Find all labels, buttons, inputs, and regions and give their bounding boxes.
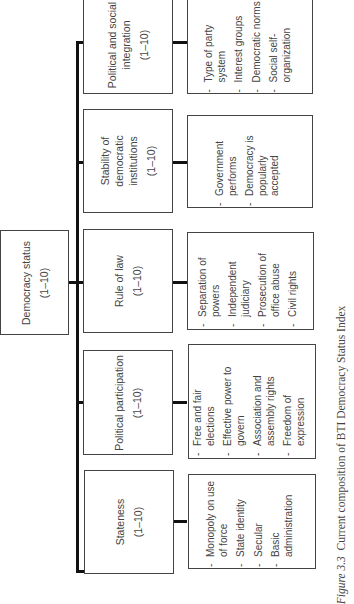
indicator-item: Independent judiciary [227, 235, 252, 327]
criterion-range: (1–10) [131, 472, 145, 572]
indicator-box-political-social-integration: Type of party system Interest groups Dem… [187, 0, 313, 94]
leaf-connector [172, 520, 187, 523]
leaf-connector [172, 41, 187, 44]
criterion-range: (1–10) [130, 231, 144, 331]
leaf-connector [172, 281, 187, 284]
indicator-item: Separation of powers [197, 235, 222, 327]
criterion-title: Political and social integration [106, 1, 132, 87]
root-range: (1–10) [37, 233, 51, 333]
indicator-item: Secular [252, 477, 265, 567]
criterion-box-stability-democratic-institutions: Stability of democratic institutions (1–… [83, 109, 173, 213]
criterion-title: Stability of democratic institutions [99, 135, 139, 186]
criterion-box-political-social-integration: Political and social integration (1–10) [83, 0, 173, 94]
leaf-connector [172, 401, 187, 404]
root-box-democracy-status: Democracy status (1–10) [0, 230, 69, 335]
indicator-item: Type of party system [203, 0, 228, 92]
indicator-item: Prosecution of office abuse [257, 235, 282, 327]
indicator-item: Government performs [214, 118, 239, 206]
indicator-box-political-participation: Free and fair elections Effective power … [188, 344, 316, 459]
indicator-box-stability-democratic-institutions: Government performs Democracy is popular… [187, 115, 313, 208]
indicator-item: Democracy is popularly accepted [244, 118, 282, 206]
caption-text: Current composition of BTI Democracy Sta… [335, 306, 347, 551]
criterion-title: Political participation [113, 355, 125, 451]
trunk-line [76, 41, 79, 573]
indicator-item: Association and assembly rights [252, 348, 277, 456]
caption-label: Figure 3.3 [335, 556, 347, 604]
indicator-item: Effective power to govern [222, 348, 247, 456]
branch-connector [76, 570, 84, 573]
criterion-range: (1–10) [130, 353, 144, 453]
root-title: Democracy status [20, 240, 32, 324]
figure-caption: Figure 3.3 Current composition of BTI De… [331, 330, 351, 580]
indicator-box-rule-of-law: Separation of powers Independent judicia… [187, 232, 314, 330]
indicator-item: Basic administration [270, 477, 295, 567]
criterion-range: (1–10) [144, 111, 158, 211]
criterion-title: Rule of law [113, 255, 125, 307]
indicator-item: Monopoly on use of force [205, 477, 230, 567]
indicator-item: Democratic norms [250, 0, 263, 92]
indicator-item: Interest groups [233, 0, 246, 92]
criterion-title: Stateness [114, 499, 126, 546]
leaf-connector [172, 161, 187, 164]
indicator-item: Social self-organization [268, 0, 293, 92]
indicator-item: Civil rights [287, 235, 300, 327]
criterion-box-rule-of-law: Rule of law (1–10) [83, 229, 173, 333]
criterion-range: (1–10) [137, 0, 151, 92]
criterion-box-political-participation: Political participation (1–10) [83, 350, 173, 455]
indicator-item: Free and fair elections [192, 348, 217, 456]
indicator-box-stateness: Monopoly on use of force State identity … [188, 474, 316, 569]
criterion-box-stateness: Stateness (1–10) [84, 470, 174, 574]
indicator-item: Freedom of expression [282, 348, 307, 456]
indicator-item: State identity [235, 477, 248, 567]
